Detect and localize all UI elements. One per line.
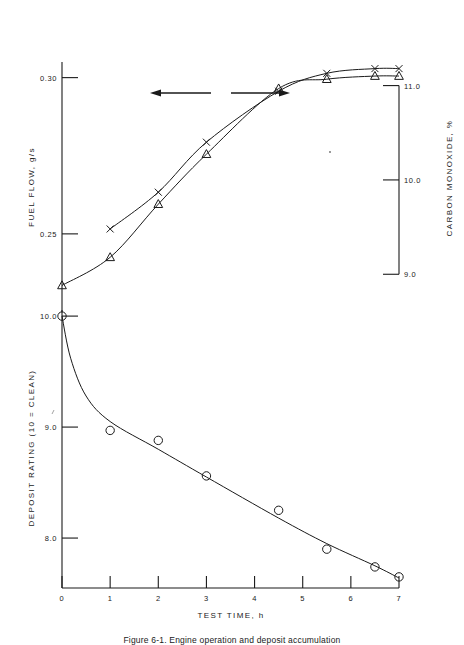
right-arrow-icon [279,89,290,96]
fuel-flow-axis-title: FUEL FLOW, g/s [27,147,36,227]
figure-caption: Figure 6-1. Engine operation and deposit… [123,635,340,645]
test-time-axis: 01234567 TEST TIME, h [60,576,402,620]
test-time-tick-label: 5 [300,594,305,603]
deposit-rating-tick-label: 9.0 [45,423,57,432]
carbon-monoxide-tick-label: 9.0 [404,270,416,279]
upper-panel: 0.300.25 FUEL FLOW, g/s 11.010.09.0 CARB… [27,62,454,312]
test-time-axis-title: TEST TIME, h [197,611,264,620]
scan-speck [329,151,331,153]
test-time-tick-label: 4 [252,594,257,603]
fuel-flow-axis: 0.300.25 FUEL FLOW, g/s [27,62,78,312]
deposit-rating-axis: 10.09.08.0 DEPOSIT RATING (10 = CLEAN) [27,310,78,588]
engine-performance-figure: 0.300.25 FUEL FLOW, g/s 11.010.09.0 CARB… [0,0,464,645]
left-arrow-icon [150,89,161,96]
deposit-rating-tick-labels: 10.09.08.0 [40,312,57,543]
deposit-rating-ticks [62,316,78,538]
test-time-tick-label: 1 [108,594,113,603]
fuel-flow-ticks [62,78,78,234]
carbon-monoxide-ticks [383,86,399,275]
carbon-monoxide-tick-labels: 11.010.09.0 [404,82,421,280]
test-time-tick-labels: 01234567 [60,594,402,603]
deposit-rating-tick-label: 8.0 [45,534,57,543]
carbon-monoxide-tick-label: 11.0 [404,82,420,91]
test-time-tick-label: 6 [348,594,353,603]
deposit-rating-marker [323,545,331,553]
deposit-rating-axis-title: DEPOSIT RATING (10 = CLEAN) [27,370,36,527]
carbon-monoxide-markers [107,65,403,232]
test-time-tick-label: 7 [397,594,402,603]
test-time-tick-label: 0 [60,594,65,603]
fuel-flow-tick-labels: 0.300.25 [40,74,57,239]
deposit-rating-markers [58,312,403,581]
fuel-flow-curve [62,76,399,286]
fuel-flow-tick-label: 0.30 [40,74,57,83]
fuel-flow-tick-label: 0.25 [40,230,57,239]
test-time-ticks [62,576,399,588]
carbon-monoxide-axis-title: CARBON MONOXIDE, % [445,120,454,237]
scan-stray-mark [52,410,54,414]
figure-root: 0.300.25 FUEL FLOW, g/s 11.010.09.0 CARB… [0,0,464,645]
deposit-rating-marker [202,472,210,480]
deposit-rating-marker [106,426,114,434]
deposit-rating-marker [274,506,282,514]
carbon-monoxide-axis: 11.010.09.0 CARBON MONOXIDE, % [383,82,454,280]
deposit-rating-tick-label: 10.0 [40,312,57,321]
deposit-rating-curve [62,316,399,578]
fuel-flow-markers [58,71,404,288]
lower-panel: 10.09.08.0 DEPOSIT RATING (10 = CLEAN) 0… [27,310,403,620]
left-arrow-annotation [150,89,211,96]
fuel-flow-marker [395,71,404,79]
right-arrow-annotation [231,89,290,96]
test-time-tick-label: 3 [204,594,209,603]
test-time-tick-label: 2 [156,594,161,603]
deposit-rating-marker [154,436,162,444]
fuel-flow-marker [371,71,380,79]
carbon-monoxide-tick-label: 10.0 [404,176,421,185]
